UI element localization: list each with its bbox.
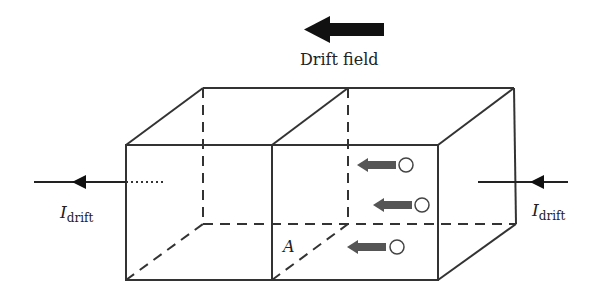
- current-subscript: drift: [67, 211, 94, 225]
- box-outline: [126, 88, 516, 280]
- current-subscript: drift: [539, 209, 566, 223]
- right-current-arrow-icon: [478, 175, 568, 189]
- particle-3: [347, 240, 404, 254]
- particle-1: [357, 158, 413, 172]
- right-current-label: Idrift: [532, 200, 565, 223]
- left-current-label: Idrift: [60, 202, 93, 225]
- current-symbol: I: [532, 200, 539, 220]
- particle-2: [373, 198, 429, 212]
- drift-field-arrow-icon: [304, 16, 384, 43]
- drift-box-diagram: [0, 0, 598, 296]
- drift-field-label: Drift field: [300, 50, 379, 69]
- current-symbol: I: [60, 202, 67, 222]
- area-label: A: [283, 237, 295, 256]
- hidden-edges: [126, 88, 516, 280]
- left-current-arrow-icon: [34, 175, 166, 189]
